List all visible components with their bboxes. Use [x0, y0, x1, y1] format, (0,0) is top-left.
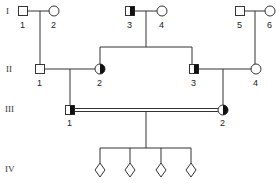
carrier-half-fill	[100, 64, 105, 74]
individual-number: 5	[237, 20, 242, 30]
carrier-half-fill	[223, 105, 228, 115]
female-unaffected-symbol	[251, 64, 261, 74]
individual-III-2: 2	[218, 105, 228, 128]
generation-label-III: III	[5, 104, 14, 114]
female-unaffected-symbol	[157, 6, 167, 16]
individual-number: 6	[267, 20, 272, 30]
male-unaffected-symbol	[36, 65, 45, 74]
individual-I-3: 3	[126, 7, 135, 31]
male-unaffected-symbol	[236, 7, 245, 16]
individual-I-1: 1	[19, 7, 28, 31]
connector-lines	[28, 11, 265, 163]
individual-number: 2	[97, 78, 102, 88]
individual-II-3: 3	[190, 65, 199, 89]
carrier-half-fill	[194, 65, 199, 74]
carrier-half-fill	[130, 7, 135, 16]
individual-number: 1	[37, 78, 42, 88]
pedigree-chart: I II III IV 1 2 3 4 5 6 1 2	[0, 0, 276, 183]
individual-I-5: 5	[236, 7, 245, 31]
female-unaffected-symbol	[49, 6, 59, 16]
generation-IV-offspring	[95, 163, 196, 177]
generation-label-II: II	[6, 64, 12, 74]
individual-IV-c-diamond	[156, 163, 166, 177]
individual-number: 4	[159, 20, 164, 30]
individual-IV-a-diamond	[95, 163, 105, 177]
individual-IV-d-diamond	[186, 163, 196, 177]
individual-number: 4	[253, 78, 258, 88]
individual-II-1: 1	[36, 65, 45, 89]
individual-number: 1	[20, 20, 25, 30]
individual-number: 2	[51, 20, 56, 30]
individual-III-1: 1	[66, 106, 75, 129]
individual-II-2: 2	[95, 64, 105, 88]
female-unaffected-symbol	[265, 6, 275, 16]
individual-II-4: 4	[251, 64, 261, 88]
male-unaffected-symbol	[19, 7, 28, 16]
generation-labels: I II III IV	[5, 6, 15, 174]
individual-number: 3	[191, 78, 196, 88]
individual-I-6: 6	[265, 6, 275, 30]
individual-I-4: 4	[157, 6, 167, 30]
carrier-half-fill	[70, 106, 75, 115]
generation-label-IV: IV	[5, 164, 15, 174]
individual-I-2: 2	[49, 6, 59, 30]
individual-IV-b-diamond	[125, 163, 135, 177]
generation-label-I: I	[6, 6, 9, 16]
individual-number: 3	[127, 20, 132, 30]
individual-number: 1	[67, 118, 72, 128]
individual-number: 2	[220, 118, 225, 128]
